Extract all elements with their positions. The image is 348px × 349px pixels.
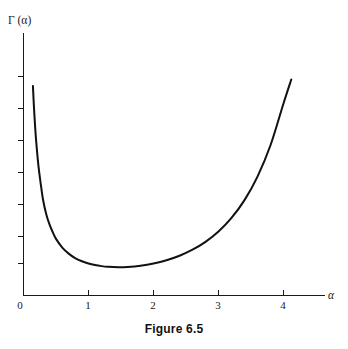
- y-axis-ticks: [18, 77, 24, 264]
- gamma-function-plot: 0 1 2 3 4 Γ (α) α: [0, 0, 348, 349]
- gamma-curve: [33, 80, 291, 268]
- x-tick-label-1: 1: [85, 299, 91, 311]
- x-tick-label-4: 4: [280, 299, 286, 311]
- x-axis-ticks: [89, 290, 284, 296]
- x-axis-label: α: [328, 289, 335, 301]
- figure-caption: Figure 6.5: [0, 322, 348, 336]
- x-tick-label-0: 0: [17, 299, 23, 311]
- x-tick-label-3: 3: [215, 299, 221, 311]
- x-tick-label-2: 2: [150, 299, 156, 311]
- y-axis-label: Γ (α): [8, 14, 31, 27]
- figure-container: 0 1 2 3 4 Γ (α) α Figure 6.5: [0, 0, 348, 349]
